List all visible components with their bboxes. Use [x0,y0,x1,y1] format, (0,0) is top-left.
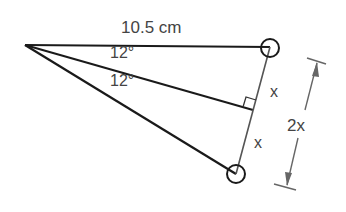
top-side-length-label: 10.5 cm [121,18,181,37]
altitude-line [25,45,253,110]
upper-angle-label: 12° [110,44,134,61]
lower-angle-label: 12° [110,72,134,89]
arrowhead-up-icon [312,62,319,77]
dimension-tick-bottom [274,184,296,190]
upper-x-label: x [270,83,278,100]
bottom-side [25,45,236,174]
triangle-diagram: 10.5 cm 12° 12° x x 2x [0,0,346,212]
lower-x-label: x [254,134,262,151]
base-line [236,47,270,174]
full-base-label: 2x [287,116,305,135]
arrowhead-down-icon [285,172,292,186]
top-side [25,45,270,47]
